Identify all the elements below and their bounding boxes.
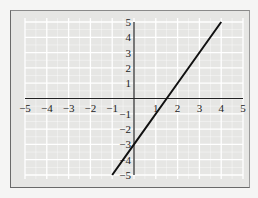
y-tick-label: −5 (119, 169, 131, 181)
x-tick-label: 4 (218, 102, 224, 114)
y-tick-label: 2 (126, 62, 132, 74)
x-tick-label: −5 (19, 102, 31, 114)
x-tick-label: −1 (106, 102, 118, 114)
y-tick-label: −1 (119, 108, 131, 120)
line-chart: −5−4−3−2−112345 54321−1−2−3−4−5 (0, 0, 258, 198)
x-tick-label: −2 (85, 102, 97, 114)
x-axis-tick-labels: −5−4−3−2−112345 (19, 102, 246, 114)
x-tick-label: −3 (63, 102, 75, 114)
y-tick-label: 5 (126, 16, 132, 28)
x-tick-label: 2 (175, 102, 181, 114)
x-tick-label: 3 (197, 102, 203, 114)
x-tick-label: −4 (41, 102, 53, 114)
y-tick-label: −3 (119, 138, 131, 150)
y-tick-label: 1 (126, 77, 132, 89)
y-tick-label: 4 (126, 31, 132, 43)
y-tick-label: −2 (119, 123, 131, 135)
y-tick-label: 3 (126, 47, 132, 59)
x-tick-label: 5 (240, 102, 246, 114)
